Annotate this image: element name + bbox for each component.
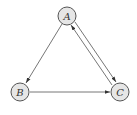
node-a-label: A bbox=[62, 11, 70, 22]
edge-a-to-c bbox=[75, 22, 116, 82]
node-b-label: B bbox=[15, 87, 23, 98]
node-c: C bbox=[111, 83, 129, 101]
node-b: B bbox=[11, 83, 29, 101]
node-a: A bbox=[58, 7, 76, 25]
edge-c-to-a bbox=[71, 25, 112, 85]
node-c-label: C bbox=[116, 87, 124, 98]
edge-a-to-b bbox=[26, 24, 62, 83]
graph-diagram: A B C bbox=[0, 0, 137, 115]
